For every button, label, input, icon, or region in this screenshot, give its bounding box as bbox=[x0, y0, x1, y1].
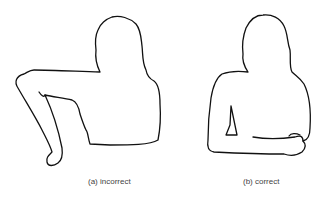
silhouette-incorrect bbox=[16, 16, 160, 165]
forearm-line-correct bbox=[253, 136, 303, 141]
arm-inner-line-incorrect bbox=[39, 92, 45, 96]
caption-correct: (b) correct bbox=[243, 177, 279, 186]
elbow-triangle-correct bbox=[226, 106, 237, 135]
figure-correct bbox=[208, 15, 311, 155]
diagram-figures bbox=[0, 0, 332, 201]
caption-incorrect: (a) incorrect bbox=[88, 177, 131, 186]
figure-incorrect bbox=[16, 16, 160, 165]
